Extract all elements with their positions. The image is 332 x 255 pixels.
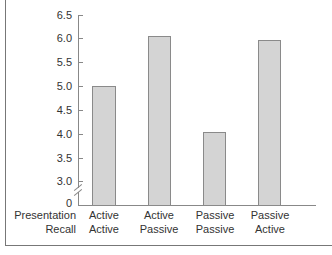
bar-passive-passive: [203, 132, 226, 206]
y-tick: [78, 110, 83, 111]
category-label: Active: [74, 208, 134, 222]
category-label: Active: [129, 208, 189, 222]
y-tick: [78, 38, 83, 39]
y-tick: [78, 62, 83, 63]
y-tick: [78, 15, 83, 16]
category-label: Passive: [185, 222, 245, 236]
y-tick-label: 6.0: [32, 32, 72, 44]
y-tick-label: 5.5: [32, 56, 72, 68]
category-label: Passive: [240, 208, 300, 222]
y-tick: [78, 158, 83, 159]
y-tick-label: 5.0: [32, 80, 72, 92]
y-tick-label: 3.5: [32, 152, 72, 164]
bar-passive-active: [258, 40, 281, 206]
y-tick-label: 6.5: [32, 9, 72, 21]
bar-active-passive: [148, 36, 171, 206]
y-tick: [78, 134, 83, 135]
category-label: Active: [240, 222, 300, 236]
y-tick-label: 4.5: [32, 104, 72, 116]
category-label: Passive: [185, 208, 245, 222]
row-label-recall: Recall: [0, 222, 76, 236]
row-label-presentation: Presentation: [0, 208, 76, 222]
chart-frame-bottom-border: [5, 245, 332, 246]
y-tick: [78, 181, 83, 182]
category-label: Active: [74, 222, 134, 236]
y-tick: [78, 86, 83, 87]
bar-active-active: [92, 86, 116, 206]
y-tick-label: 4.0: [32, 128, 72, 140]
category-label: Passive: [129, 222, 189, 236]
y-tick-label: 3.0: [32, 175, 72, 187]
